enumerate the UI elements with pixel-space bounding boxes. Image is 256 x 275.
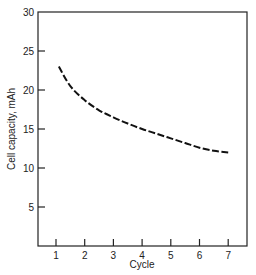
y-axis-title: Cell capacity, mAh bbox=[6, 88, 17, 170]
y-tick-label: 20 bbox=[23, 85, 35, 96]
x-axis-ticks: 1234567 bbox=[53, 239, 231, 261]
y-tick-label: 15 bbox=[23, 124, 35, 135]
y-tick-label: 30 bbox=[23, 7, 35, 18]
x-axis-title: Cycle bbox=[129, 259, 154, 270]
y-axis-ticks: 51015202530 bbox=[23, 7, 45, 213]
y-tick-label: 10 bbox=[23, 163, 35, 174]
x-tick-label: 2 bbox=[82, 250, 88, 261]
x-tick-label: 3 bbox=[111, 250, 117, 261]
y-tick-label: 5 bbox=[28, 202, 34, 213]
y-tick-label: 25 bbox=[23, 46, 35, 57]
x-tick-label: 5 bbox=[168, 250, 174, 261]
capacity-curve bbox=[59, 67, 228, 153]
capacity-chart: 51015202530 1234567 Cycle Cell capacity,… bbox=[0, 0, 256, 275]
x-tick-label: 6 bbox=[197, 250, 203, 261]
x-tick-label: 1 bbox=[53, 250, 59, 261]
x-tick-label: 7 bbox=[225, 250, 231, 261]
